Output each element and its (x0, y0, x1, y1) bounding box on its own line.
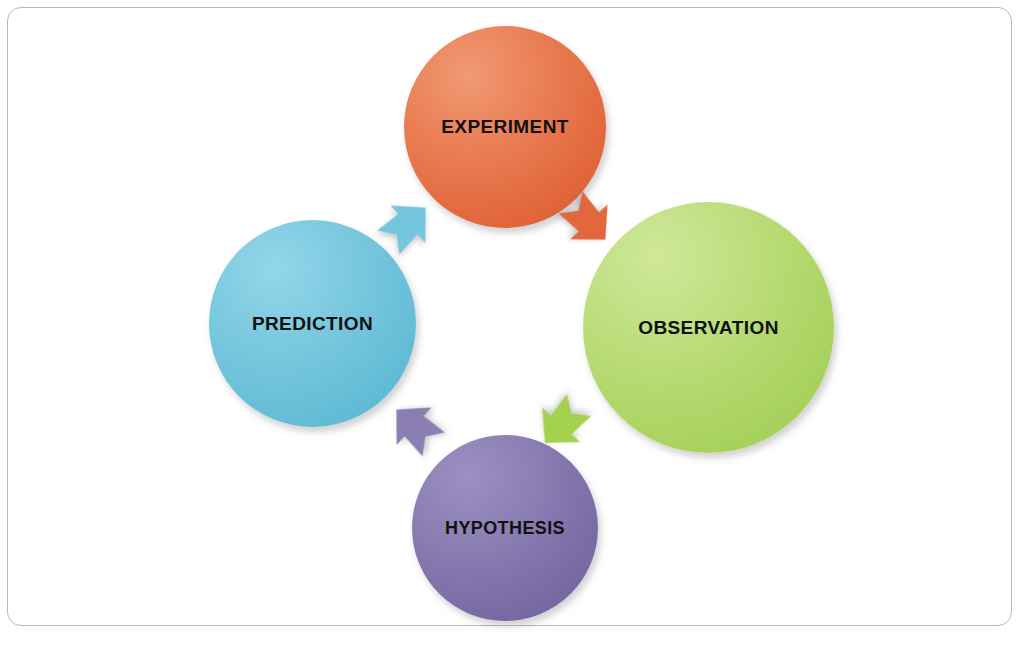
node-experiment-label: EXPERIMENT (441, 116, 569, 138)
node-prediction[interactable]: PREDICTION (209, 220, 416, 427)
node-prediction-label: PREDICTION (252, 313, 373, 335)
diagram-canvas: EXPERIMENT OBSERVATION HYPOTHESIS PREDIC… (0, 0, 1024, 645)
node-observation[interactable]: OBSERVATION (583, 202, 834, 453)
node-hypothesis[interactable]: HYPOTHESIS (412, 435, 598, 621)
node-observation-label: OBSERVATION (638, 317, 779, 339)
node-hypothesis-label: HYPOTHESIS (445, 518, 565, 539)
